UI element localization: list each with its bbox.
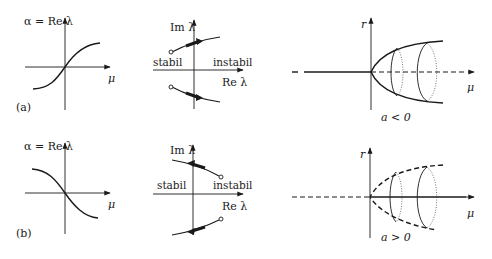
arrow-right-icon bbox=[196, 38, 203, 45]
x-axis-label: μ bbox=[108, 72, 115, 85]
arrow-left-icon bbox=[187, 228, 195, 235]
upper-eigen-path bbox=[172, 160, 219, 176]
start-point-icon bbox=[169, 50, 173, 54]
increasing-curve bbox=[33, 43, 100, 89]
y-axis-label: Im λ bbox=[170, 144, 195, 157]
y-axis-label: r bbox=[360, 148, 366, 161]
row-a-eigenvalue-plot: Im λ Re λ stabil instabil bbox=[153, 20, 253, 109]
row-a-bifurcation-plot: r μ a < 0 bbox=[292, 18, 474, 124]
hopf-bifurcation-figure: α = Re λ μ (a) Im λ Re λ stabil instabil… bbox=[0, 0, 492, 259]
arrow-right-icon bbox=[196, 94, 203, 101]
stable-region-label: stabil bbox=[153, 56, 183, 68]
unstable-region-label: instabil bbox=[213, 56, 253, 68]
y-axis-label: Im λ bbox=[170, 21, 195, 34]
x-axis-label: Re λ bbox=[222, 200, 247, 213]
y-axis-label: r bbox=[361, 18, 367, 31]
row-b-bifurcation-plot: r μ a > 0 bbox=[292, 148, 474, 244]
arrow-left-icon bbox=[187, 160, 195, 167]
x-axis-label: μ bbox=[467, 81, 474, 94]
x-axis-label: μ bbox=[108, 198, 115, 211]
row-label: (a) bbox=[16, 101, 31, 114]
stable-region-label: stabil bbox=[157, 179, 187, 191]
x-axis-label: Re λ bbox=[222, 76, 247, 89]
row-b-eigenvalue-plot: Im λ Re λ stabil instabil bbox=[153, 144, 253, 235]
condition-label: a < 0 bbox=[381, 111, 411, 124]
row-a-re-lambda-plot: α = Re λ μ (a) bbox=[16, 15, 115, 114]
start-point-icon bbox=[169, 85, 173, 89]
start-point-icon bbox=[219, 217, 223, 221]
y-axis-label: α = Re λ bbox=[24, 15, 73, 28]
x-axis-label: μ bbox=[467, 207, 474, 220]
row-b-re-lambda-plot: α = Re λ μ (b) bbox=[16, 140, 115, 240]
condition-label: a > 0 bbox=[381, 231, 411, 244]
upper-eigen-path bbox=[172, 37, 220, 52]
lower-eigen-path bbox=[172, 220, 219, 235]
row-label: (b) bbox=[16, 227, 32, 240]
unstable-region-label: instabil bbox=[213, 179, 253, 191]
y-axis-label: α = Re λ bbox=[24, 140, 73, 153]
